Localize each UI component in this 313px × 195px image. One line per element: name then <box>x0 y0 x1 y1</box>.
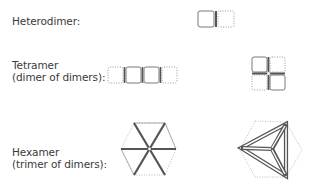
heterodimer-linear <box>198 11 234 27</box>
hexamer-triangular <box>240 121 302 177</box>
subunit-dotted <box>218 11 234 27</box>
subunit-solid <box>144 67 159 83</box>
subunit-solid <box>198 11 214 27</box>
center-dot <box>267 72 270 75</box>
subunit-dotted <box>252 75 267 90</box>
hexamer-flat <box>121 123 176 175</box>
interface-spoke-gap <box>243 148 271 149</box>
tetramer-square <box>252 57 285 90</box>
hexagon-edge-solid <box>121 149 134 175</box>
oligomer-diagram <box>0 0 313 195</box>
subunit-dotted <box>270 57 285 72</box>
subunit-solid <box>270 75 285 90</box>
hexagon-edge-solid <box>165 123 176 149</box>
center-dot <box>148 148 151 151</box>
tetramer-linear <box>108 67 177 83</box>
subunit-dotted <box>162 67 177 83</box>
subunit-solid <box>126 67 141 83</box>
subunit-dotted <box>108 67 123 83</box>
subunit-solid <box>252 57 267 72</box>
